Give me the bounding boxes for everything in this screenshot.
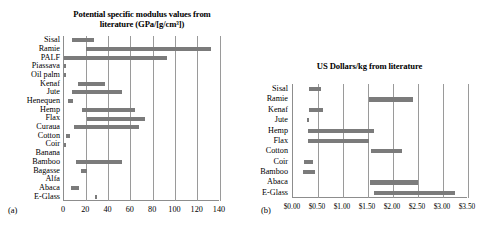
- bar-hemp: [82, 108, 135, 112]
- panel-b-axis-baseline: [293, 197, 467, 198]
- bar-sisal: [309, 87, 321, 91]
- bar-coir: [64, 143, 66, 147]
- category-label: Jute: [237, 116, 288, 124]
- panel-a-title: Potential specific modulus values from l…: [52, 10, 232, 29]
- category-label: Cotton: [237, 147, 288, 155]
- gridline: [443, 84, 444, 198]
- category-label: Bamboo: [4, 158, 60, 166]
- panel-b-title: US Dollars/kg from literature: [277, 62, 462, 72]
- category-label: Ramie: [237, 95, 288, 103]
- category-label: Coir: [237, 158, 288, 166]
- bar-jute: [72, 90, 122, 94]
- x-tick-label: $3.50: [447, 203, 480, 210]
- panel-a-title-line2: literature (GPa/[g/cm³]): [52, 20, 232, 30]
- category-label: Ramie: [4, 45, 60, 53]
- bar-jute: [307, 118, 309, 122]
- bar-palf: [64, 56, 167, 60]
- bar-henequen: [68, 99, 72, 103]
- gridline: [153, 36, 154, 201]
- bar-kenaf: [78, 82, 105, 86]
- category-label: Abaca: [4, 184, 60, 192]
- bar-bagasse: [81, 169, 88, 173]
- bar-kenaf: [309, 108, 323, 112]
- bar-ramie: [369, 97, 413, 101]
- gridline: [220, 36, 221, 201]
- panel-a-axis-baseline: [64, 200, 219, 201]
- category-label: Oil palm: [4, 71, 60, 79]
- gridline: [468, 84, 469, 198]
- panel-b: US Dollars/kg from literature (b) SisalR…: [237, 0, 474, 232]
- panel-a-plot-area: [63, 36, 219, 201]
- bar-bamboo: [76, 160, 122, 164]
- category-label: Kenaf: [237, 106, 288, 114]
- bar-curaua: [74, 125, 139, 129]
- bar-flax: [308, 139, 369, 143]
- category-label: E-Glass: [237, 189, 288, 197]
- bar-e-glass: [95, 195, 97, 199]
- bar-abaca: [71, 186, 79, 190]
- panel-a: Potential specific modulus values from l…: [0, 0, 237, 232]
- category-label: E-Glass: [4, 193, 60, 201]
- bar-cotton: [66, 134, 70, 138]
- panel-a-letter: (a): [8, 205, 17, 215]
- bar-e-glass: [374, 191, 455, 195]
- gridline: [197, 36, 198, 201]
- bar-oil-palm: [64, 73, 66, 77]
- gridline: [175, 36, 176, 201]
- bar-sisal: [72, 38, 94, 42]
- category-label: Bamboo: [237, 168, 288, 176]
- bar-bamboo: [303, 170, 315, 174]
- x-tick-label: 140: [199, 206, 239, 214]
- category-label: Abaca: [237, 178, 288, 186]
- category-label: Henequen: [4, 97, 60, 105]
- category-label: Hemp: [237, 127, 288, 135]
- bar-cotton: [371, 149, 402, 153]
- bar-flax: [87, 117, 145, 121]
- bar-hemp: [308, 129, 374, 133]
- panel-b-plot-area: [292, 84, 467, 198]
- category-label: Sisal: [237, 85, 288, 93]
- panel-b-letter: (b): [261, 205, 271, 215]
- bar-coir: [304, 160, 313, 164]
- bar-piassava: [64, 64, 66, 68]
- category-label: Flax: [237, 137, 288, 145]
- bar-ramie: [86, 47, 211, 51]
- bar-abaca: [370, 180, 418, 184]
